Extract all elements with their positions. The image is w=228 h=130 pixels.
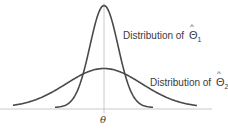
label-1-prefix: Distribution of	[123, 30, 184, 41]
distribution-diagram	[0, 0, 228, 130]
theta-axis-label: θ	[100, 114, 106, 125]
theta-hat-1-symbol: ^Θ1	[189, 29, 201, 41]
label-distribution-2: Distribution of ^Θ2	[150, 76, 228, 88]
label-distribution-1: Distribution of ^Θ1	[123, 29, 201, 41]
theta-hat-2-symbol: ^Θ2	[216, 76, 228, 88]
label-2-prefix: Distribution of	[150, 77, 211, 88]
